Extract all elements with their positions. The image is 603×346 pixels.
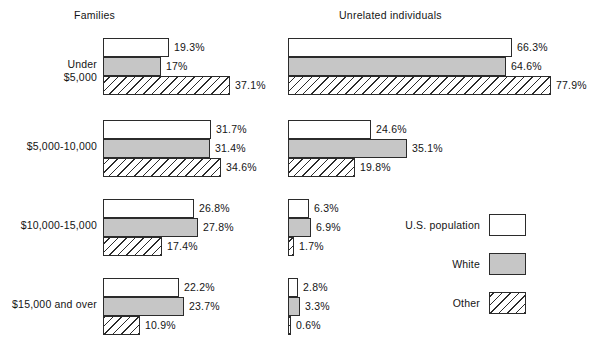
value-families-10000-15000-other: 17.4% (167, 237, 198, 256)
value-families-over15000-us: 22.2% (184, 278, 215, 297)
bar-unrelated-over15000-white (288, 297, 300, 316)
value-unrelated-over15000-other: 0.6% (296, 316, 321, 335)
bar-families-10000-15000-other (103, 237, 162, 256)
value-unrelated-5000-10000-other: 19.8% (360, 158, 391, 177)
value-families-5000-10000-other: 34.6% (226, 158, 257, 177)
bar-families-5000-10000-other (103, 158, 221, 177)
value-families-under5000-white: 17% (166, 57, 188, 76)
bar-families-10000-15000-white (103, 218, 198, 237)
bar-families-10000-15000-us (103, 199, 194, 218)
row-label-10000-15000: $10,000-15,000 (0, 219, 97, 232)
bar-unrelated-5000-10000-us (288, 120, 371, 139)
value-unrelated-under5000-other: 77.9% (556, 76, 587, 95)
bar-unrelated-5000-10000-white (288, 139, 407, 158)
value-unrelated-under5000-white: 64.6% (511, 57, 542, 76)
bar-unrelated-under5000-white (288, 57, 506, 76)
value-unrelated-over15000-white: 3.3% (305, 297, 330, 316)
bar-unrelated-over15000-other (288, 316, 291, 335)
bar-families-under5000-other (103, 76, 230, 95)
bar-unrelated-5000-10000-other (288, 158, 355, 177)
bar-families-over15000-other (103, 316, 140, 335)
legend-item-other: Other (364, 292, 526, 314)
bar-families-under5000-us (103, 38, 169, 57)
income-distribution-chart: Families Unrelated individuals Under $5,… (0, 0, 603, 346)
row-label-5000-10000: $5,000-10,000 (0, 140, 97, 153)
value-families-over15000-white: 23.7% (189, 297, 220, 316)
value-unrelated-under5000-us: 66.3% (517, 38, 548, 57)
value-unrelated-over15000-us: 2.8% (303, 278, 328, 297)
value-families-over15000-other: 10.9% (145, 316, 176, 335)
row-label-under-5000: Under $5,000 (0, 58, 97, 84)
value-unrelated-10000-15000-us: 6.3% (314, 199, 339, 218)
bar-unrelated-under5000-us (288, 38, 512, 57)
panel-title-unrelated-individuals: Unrelated individuals (339, 9, 442, 21)
bar-unrelated-10000-15000-other (288, 237, 294, 256)
value-unrelated-5000-10000-us: 24.6% (376, 120, 407, 139)
bar-families-over15000-white (103, 297, 184, 316)
bar-unrelated-over15000-us (288, 278, 298, 297)
value-families-5000-10000-us: 31.7% (216, 120, 247, 139)
bar-unrelated-10000-15000-us (288, 199, 309, 218)
legend-swatch-other (489, 292, 526, 314)
legend-item-white: White (364, 253, 526, 275)
bar-unrelated-under5000-other (288, 76, 551, 95)
legend-swatch-white (489, 253, 526, 275)
row-label-15000-and-over: $15,000 and over (0, 298, 97, 311)
legend-swatch-us-population (489, 214, 526, 236)
bar-families-5000-10000-white (103, 139, 210, 158)
value-unrelated-5000-10000-white: 35.1% (412, 139, 443, 158)
legend-label-white: White (364, 258, 480, 270)
bar-families-over15000-us (103, 278, 179, 297)
value-families-under5000-us: 19.3% (174, 38, 205, 57)
bar-unrelated-10000-15000-white (288, 218, 311, 237)
legend-label-other: Other (364, 297, 480, 309)
value-unrelated-10000-15000-white: 6.9% (316, 218, 341, 237)
legend-label-us-population: U.S. population (364, 219, 480, 231)
panel-title-families: Families (74, 9, 115, 21)
legend-item-us-population: U.S. population (364, 214, 526, 236)
bar-families-5000-10000-us (103, 120, 211, 139)
value-families-10000-15000-us: 26.8% (199, 199, 230, 218)
value-unrelated-10000-15000-other: 1.7% (299, 237, 324, 256)
value-families-under5000-other: 37.1% (235, 76, 266, 95)
bar-families-under5000-white (103, 57, 161, 76)
value-families-10000-15000-white: 27.8% (203, 218, 234, 237)
value-families-5000-10000-white: 31.4% (215, 139, 246, 158)
